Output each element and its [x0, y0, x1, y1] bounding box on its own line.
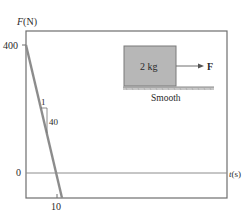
y-axis-label: F(N): [16, 16, 37, 28]
slope-run-label: 40: [49, 117, 59, 127]
y-tick-0-label: 0: [16, 167, 21, 178]
force-label: F: [207, 61, 213, 72]
block-mass-label: 2 kg: [140, 61, 158, 72]
surface-label: Smooth: [151, 93, 181, 103]
x-axis-label: t(s): [229, 169, 241, 179]
force-arrow-head: [198, 64, 204, 69]
x-tick-10-label: 10: [51, 201, 61, 212]
force-time-diagram: F(N) 400 0 10 t(s) 1 40 2 kg F Smooth: [0, 0, 246, 219]
y-tick-400-label: 400: [3, 40, 18, 51]
slope-rise-label: 1: [41, 97, 46, 107]
